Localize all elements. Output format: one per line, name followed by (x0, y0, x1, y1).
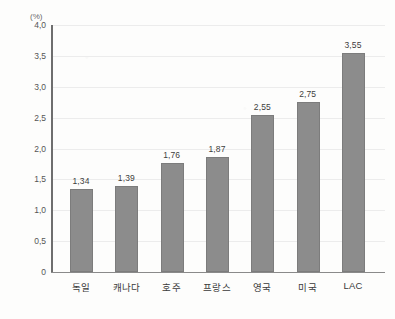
bar-value-label: 1,87 (195, 144, 239, 154)
x-axis-category-label: 캐나다 (104, 280, 148, 294)
bar-value-label: 1,34 (59, 176, 103, 186)
bar-slot: 1,39캐나다 (104, 25, 148, 272)
y-tick-label: 0 (41, 267, 46, 277)
bar[interactable] (115, 186, 138, 272)
bar-value-label: 2,75 (286, 89, 330, 99)
x-axis-category-label: 영국 (240, 280, 284, 294)
y-tick-label: 2,0 (34, 144, 46, 154)
bar-slot: 2,75미국 (286, 25, 330, 272)
bar-value-label: 3,55 (331, 40, 375, 50)
chart-screenshot: (%) GDP 중 비율 00,51,01,52,02,53,03,54,0 1… (0, 0, 395, 319)
y-tick-label: 4,0 (34, 20, 46, 30)
bar[interactable] (297, 102, 320, 272)
x-axis-category-label: LAC (331, 280, 375, 291)
y-tick-label: 0,5 (34, 236, 46, 246)
x-axis-category-label: 프랑스 (195, 280, 239, 294)
bar[interactable] (206, 157, 229, 272)
bar-slot: 1,87프랑스 (195, 25, 239, 272)
y-tick-label: 3,0 (34, 82, 46, 92)
plot-area: 00,51,01,52,02,53,03,54,0 1,34독일1,39캐나다1… (51, 25, 385, 273)
x-axis-category-label: 독일 (59, 280, 103, 294)
y-tick-label: 1,5 (34, 174, 46, 184)
bar[interactable] (161, 163, 184, 272)
bar-slot: 3,55LAC (331, 25, 375, 272)
bar-value-label: 1,76 (150, 150, 194, 160)
y-tick-label: 1,0 (34, 205, 46, 215)
bar-slot: 1,76호주 (150, 25, 194, 272)
bar-value-label: 1,39 (104, 173, 148, 183)
bar-value-label: 2,55 (240, 102, 284, 112)
y-tick-label: 2,5 (34, 113, 46, 123)
x-axis-category-label: 미국 (286, 280, 330, 294)
y-tick-label: 3,5 (34, 51, 46, 61)
bar-slot: 1,34독일 (59, 25, 103, 272)
bar[interactable] (70, 189, 93, 272)
x-axis-category-label: 호주 (150, 280, 194, 294)
bar[interactable] (342, 53, 365, 272)
bar[interactable] (251, 115, 274, 272)
x-axis-spine (51, 272, 385, 273)
bar-slot: 2,55영국 (240, 25, 284, 272)
